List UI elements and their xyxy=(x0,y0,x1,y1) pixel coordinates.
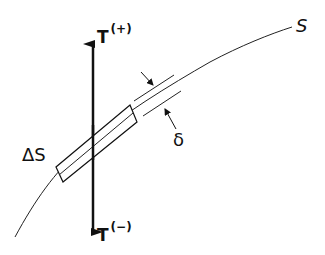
delta-arrow-upper-icon xyxy=(141,72,153,85)
thickness-delta-label: δ xyxy=(173,131,184,149)
t-minus-main: T xyxy=(97,225,109,245)
diagram-canvas xyxy=(0,0,325,255)
surface-curve-s xyxy=(15,27,292,237)
delta-arrow-lower-icon xyxy=(165,109,176,129)
surface-s-label: S xyxy=(296,17,307,35)
delta-s-label: ΔS xyxy=(22,146,46,164)
t-plus-label: T(+) xyxy=(97,29,132,46)
thickness-line-upper xyxy=(134,75,174,101)
thickness-line-lower xyxy=(143,91,181,116)
t-plus-main: T xyxy=(97,27,109,47)
t-plus-sup: (+) xyxy=(111,22,132,36)
t-minus-sup: (−) xyxy=(111,220,132,234)
t-minus-label: T(−) xyxy=(97,227,132,244)
